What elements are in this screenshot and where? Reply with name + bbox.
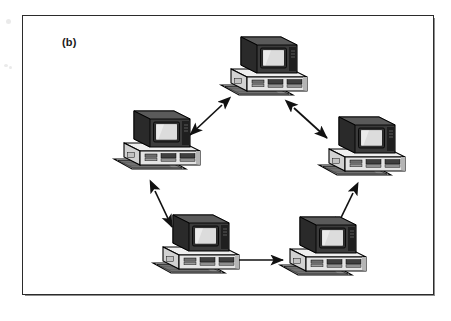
- network-topology-diagram: [22, 15, 434, 295]
- network-nodes: [114, 37, 405, 275]
- link-left-bottomleft: [155, 191, 172, 227]
- pc-node-top: [221, 37, 307, 95]
- pc-node-bottom-right: [280, 217, 366, 275]
- pc-node-right: [319, 117, 405, 175]
- scan-artifact-speck: [9, 66, 12, 69]
- link-top-right: [294, 108, 327, 138]
- pc-node-left: [114, 111, 200, 169]
- scan-artifact-speck: [6, 19, 11, 24]
- link-top-left: [190, 105, 222, 135]
- scan-artifact-speck: [4, 64, 8, 67]
- pc-node-bottom-left: [153, 215, 239, 273]
- scanned-page: (b): [0, 0, 451, 321]
- topology-svg: [22, 15, 434, 295]
